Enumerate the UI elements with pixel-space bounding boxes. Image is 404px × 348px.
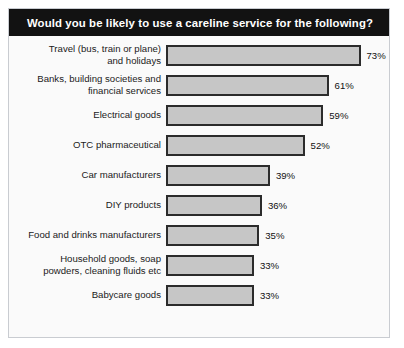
bar-row: Food and drinks manufacturers35% (9, 220, 390, 250)
bar-category-label: OTC pharmaceutical (9, 139, 166, 151)
bar-value-label: 33% (260, 260, 279, 271)
bar-value-label: 59% (329, 110, 348, 121)
bar (166, 75, 329, 96)
bar-row: OTC pharmaceutical52% (9, 130, 390, 160)
bar-category-label: DIY products (9, 199, 166, 211)
bar (166, 45, 361, 66)
bar-track: 73% (166, 40, 390, 70)
bar-value-label: 52% (311, 140, 330, 151)
bar-row: Travel (bus, train or plane) and holiday… (9, 40, 390, 70)
bar-row: Electrical goods59% (9, 100, 390, 130)
bar (166, 135, 305, 156)
bar-category-label: Food and drinks manufacturers (9, 229, 166, 241)
bar-value-label: 73% (367, 50, 386, 61)
bar-category-label: Household goods, soap powders, cleaning … (9, 253, 166, 276)
bar-track: 61% (166, 70, 390, 100)
bar-track: 35% (166, 220, 390, 250)
bar-row: Babycare goods33% (9, 280, 390, 310)
bar-category-label: Car manufacturers (9, 169, 166, 181)
bar-value-label: 35% (265, 230, 284, 241)
bar-category-label: Banks, building societies and financial … (9, 73, 166, 96)
bar (166, 255, 254, 276)
bar-track: 36% (166, 190, 390, 220)
bar-category-label: Babycare goods (9, 289, 166, 301)
bar-track: 39% (166, 160, 390, 190)
bar-row: DIY products36% (9, 190, 390, 220)
bar-value-label: 36% (268, 200, 287, 211)
bar-value-label: 39% (276, 170, 295, 181)
bar-track: 33% (166, 280, 390, 310)
bar-track: 52% (166, 130, 390, 160)
chart-container: Would you be likely to use a careline se… (8, 8, 390, 338)
bar-row: Car manufacturers39% (9, 160, 390, 190)
bar-track: 33% (166, 250, 390, 280)
bar (166, 195, 262, 216)
bar-track: 59% (166, 100, 390, 130)
bar (166, 285, 254, 306)
bar-row: Banks, building societies and financial … (9, 70, 390, 100)
bar (166, 225, 259, 246)
bar-value-label: 61% (335, 80, 354, 91)
chart-title-bar: Would you be likely to use a careline se… (9, 9, 390, 36)
bar (166, 165, 270, 186)
bar-row: Household goods, soap powders, cleaning … (9, 250, 390, 280)
chart-plot-area: Travel (bus, train or plane) and holiday… (9, 36, 390, 338)
bar-category-label: Electrical goods (9, 109, 166, 121)
chart-title: Would you be likely to use a careline se… (27, 17, 373, 29)
bar (166, 105, 323, 126)
bar-value-label: 33% (260, 290, 279, 301)
bar-category-label: Travel (bus, train or plane) and holiday… (9, 43, 166, 66)
